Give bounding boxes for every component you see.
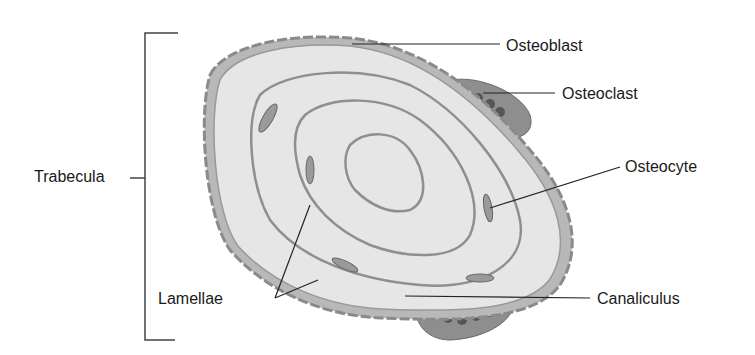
label-osteoclast: Osteoclast	[562, 85, 638, 103]
label-osteocyte: Osteocyte	[625, 158, 697, 176]
label-canaliculus: Canaliculus	[597, 290, 680, 308]
label-lamellae: Lamellae	[158, 290, 223, 308]
label-trabecula: Trabecula	[34, 168, 105, 186]
bone-matrix	[214, 45, 560, 310]
label-osteoblast: Osteoblast	[506, 37, 582, 55]
